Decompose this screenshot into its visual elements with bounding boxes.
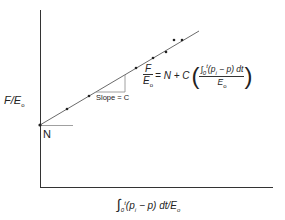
data-point (181, 39, 184, 42)
data-point (88, 95, 91, 98)
equation-middle: = N + C (155, 70, 189, 81)
diagram-canvas (0, 0, 285, 220)
equation-close-paren: ) (244, 64, 252, 88)
data-point (173, 39, 176, 42)
y-axis-label: F/Eo (4, 94, 24, 108)
intercept-label: N (43, 128, 51, 140)
equation-rhs-fraction: ∫0t(pi − p) dt Eo (199, 63, 244, 88)
model-equation: F Eo = N + C ( ∫0t(pi − p) dt Eo ) (143, 63, 252, 88)
data-point (165, 51, 168, 54)
slope-label: Slope = C (96, 93, 129, 102)
data-point (38, 123, 41, 126)
equation-open-paren: ( (191, 64, 199, 88)
data-point (152, 57, 155, 60)
x-axis-label: ∫0t(pi − p) dt/Eo (117, 196, 180, 213)
data-point (66, 108, 69, 111)
data-point (135, 67, 138, 70)
equation-lhs-fraction: F Eo (143, 63, 153, 88)
